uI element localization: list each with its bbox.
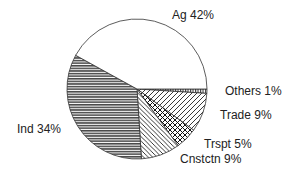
pie-chart: Others 1% Trade 9% Trspt 5% Cnstctn 9% I… <box>0 0 293 175</box>
label-trade: Trade 9% <box>220 108 272 122</box>
label-cnstctn: Cnstctn 9% <box>180 152 242 166</box>
label-ag: Ag 42% <box>172 8 214 22</box>
label-ind: Ind 34% <box>17 122 61 136</box>
label-others: Others 1% <box>225 84 282 98</box>
label-trspt: Trspt 5% <box>204 137 252 151</box>
